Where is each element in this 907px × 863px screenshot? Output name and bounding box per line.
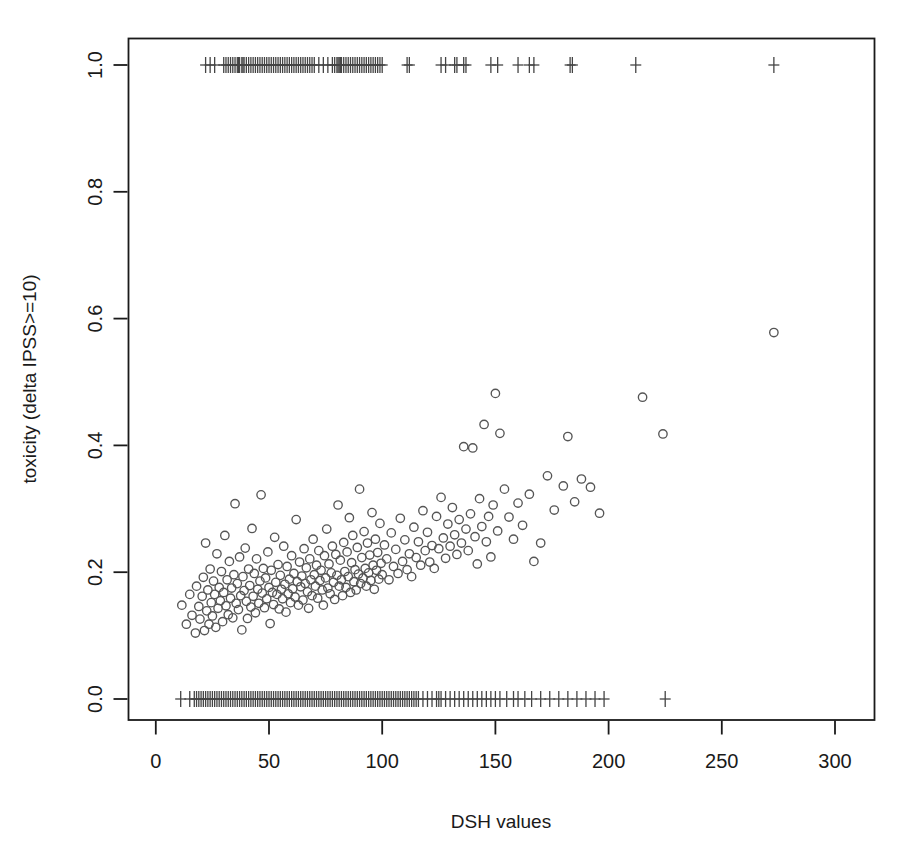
x-tick-label: 50 xyxy=(258,750,280,772)
y-axis-title: toxicity (delta IPSS>=10) xyxy=(19,274,40,483)
x-tick-label: 250 xyxy=(705,750,738,772)
y-tick-label: 0.2 xyxy=(84,558,106,586)
y-tick-label: 0.6 xyxy=(84,305,106,333)
y-tick-label: 1.0 xyxy=(84,51,106,79)
x-axis-title: DSH values xyxy=(451,811,551,832)
x-tick-label: 100 xyxy=(366,750,399,772)
y-tick-label: 0.8 xyxy=(84,178,106,206)
x-tick-label: 150 xyxy=(479,750,512,772)
x-tick-label: 300 xyxy=(818,750,851,772)
x-tick-label: 200 xyxy=(592,750,625,772)
figure-background xyxy=(0,0,907,863)
x-tick-label: 0 xyxy=(150,750,161,772)
scatter-plot-figure: 050100150200250300 0.00.20.40.60.81.0 DS… xyxy=(0,0,907,863)
y-tick-label: 0.0 xyxy=(84,685,106,713)
y-tick-label: 0.4 xyxy=(84,431,106,459)
